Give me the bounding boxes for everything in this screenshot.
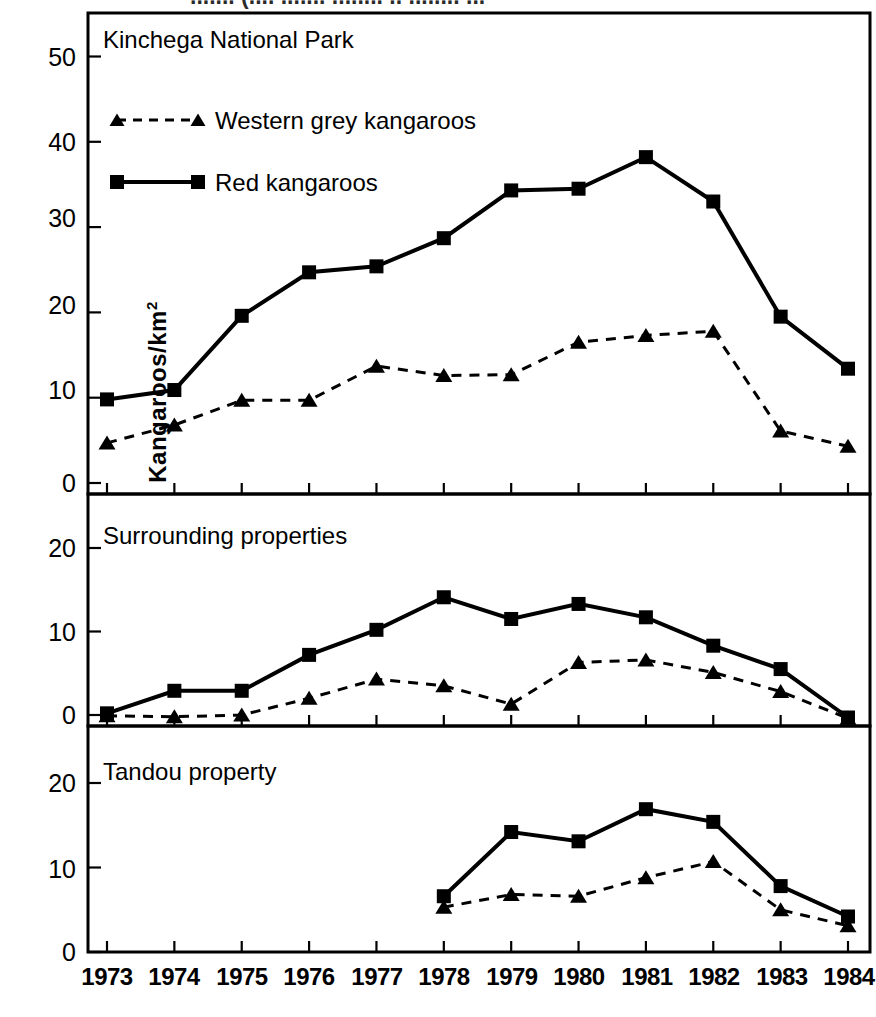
panel2-series <box>99 590 857 725</box>
data-point-marker <box>572 182 586 196</box>
data-point-marker <box>100 392 114 406</box>
legend-samples <box>110 114 206 190</box>
data-point-marker <box>504 612 518 626</box>
data-point-marker <box>368 672 385 686</box>
data-point-marker <box>639 150 653 164</box>
panel-frames <box>88 13 870 952</box>
data-point-marker <box>705 854 722 868</box>
data-point-marker <box>637 328 654 342</box>
axis-ticks <box>88 57 848 953</box>
legend-sample-western-grey <box>110 114 206 127</box>
data-point-marker <box>570 335 587 349</box>
data-point-marker <box>572 834 586 848</box>
data-point-marker <box>437 231 451 245</box>
data-point-marker <box>639 610 653 624</box>
data-series-layer <box>99 150 857 932</box>
legend-sample-red <box>110 175 205 189</box>
data-point-marker <box>301 691 318 705</box>
data-point-marker <box>572 597 586 611</box>
plot-canvas <box>0 0 876 1017</box>
kangaroo-density-figure: ....... (.... ....... ........ .. ......… <box>0 0 876 1017</box>
data-point-marker <box>437 590 451 604</box>
data-point-marker <box>637 870 654 884</box>
data-point-marker <box>302 265 316 279</box>
data-point-marker <box>639 802 653 816</box>
panel3-series <box>435 802 856 932</box>
data-point-marker <box>774 662 788 676</box>
data-point-marker <box>435 678 452 692</box>
data-point-marker <box>637 652 654 666</box>
panel1-series <box>99 150 857 453</box>
data-point-marker <box>504 183 518 197</box>
data-point-marker <box>706 639 720 653</box>
data-point-marker <box>369 259 383 273</box>
data-point-marker <box>167 684 181 698</box>
data-point-marker <box>570 655 587 669</box>
data-point-marker <box>235 684 249 698</box>
data-point-marker <box>774 310 788 324</box>
series-line-red <box>107 597 848 717</box>
data-point-marker <box>772 423 789 437</box>
data-point-marker <box>841 362 855 376</box>
data-point-marker <box>302 648 316 662</box>
data-point-marker <box>166 417 183 431</box>
panel3-frame <box>88 726 870 952</box>
data-point-marker <box>503 367 520 381</box>
data-point-marker <box>706 815 720 829</box>
panel1-frame <box>88 13 870 494</box>
data-point-marker <box>774 879 788 893</box>
series-line-western-grey <box>107 331 848 446</box>
data-point-marker <box>167 383 181 397</box>
data-point-marker <box>504 825 518 839</box>
data-point-marker <box>706 195 720 209</box>
series-line-red <box>107 157 848 399</box>
data-point-marker <box>369 623 383 637</box>
data-point-marker <box>235 309 249 323</box>
data-point-marker <box>705 324 722 338</box>
